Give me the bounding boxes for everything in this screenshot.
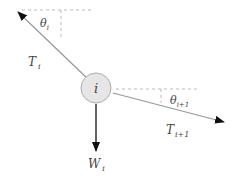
tension-arrow-left [18, 12, 89, 80]
force-label-t-i-plus-1: Ti+1 [166, 123, 189, 139]
angle-label-theta-i-plus-1: θi+1 [170, 94, 189, 109]
angle-label-theta-i: θi [40, 17, 49, 32]
force-label-t-i: Ti [28, 55, 41, 71]
tension-arrow-right [113, 93, 224, 122]
force-label-w-i: Wi [88, 157, 105, 173]
force-diagram: i θi θi+1 Ti Ti+1 Wi [0, 0, 238, 183]
node-label: i [94, 81, 98, 96]
